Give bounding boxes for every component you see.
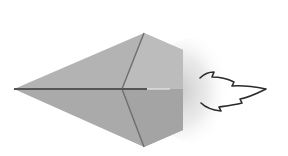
illustration-canvas: paper-airplane-with-exhaust-flame bbox=[0, 0, 288, 156]
paper-airplane-icon bbox=[14, 33, 183, 147]
paper-airplane-illustration bbox=[0, 0, 288, 156]
